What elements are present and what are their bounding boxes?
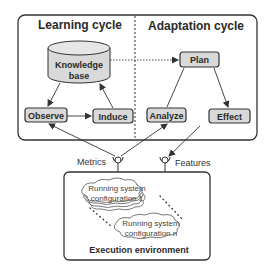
- adaptation-diagram: Learning cycle Adaptation cycle Knowledg…: [0, 0, 271, 274]
- metrics-interface: Metrics: [77, 157, 123, 172]
- features-label: Features: [175, 158, 211, 168]
- effect-node: Effect: [209, 109, 250, 123]
- config-1-label-2: configuration 1: [91, 194, 144, 203]
- analyze-node: Analyze: [147, 108, 186, 122]
- config-1-label-1: Running system: [88, 184, 146, 193]
- knowledge-base-label-1: Knowledge: [55, 60, 103, 70]
- observe-node: Observe: [25, 108, 67, 122]
- execution-environment-label: Execution environment: [89, 245, 189, 255]
- learning-cycle-title: Learning cycle: [38, 18, 122, 32]
- adaptation-cycle-title: Adaptation cycle: [148, 19, 244, 33]
- analyze-label: Analyze: [149, 111, 183, 121]
- plan-node: Plan: [180, 52, 219, 67]
- effect-label: Effect: [217, 112, 242, 122]
- running-config-1-cloud: Running system configuration 1: [82, 178, 146, 211]
- plan-label: Plan: [190, 55, 209, 65]
- observe-label: Observe: [28, 111, 64, 121]
- induce-node: Induce: [93, 109, 133, 123]
- knowledge-base-node: Knowledge base: [48, 41, 110, 83]
- config-n-label-2: configuration n: [125, 229, 177, 238]
- induce-label: Induce: [98, 112, 127, 122]
- config-n-label-1: Running system: [122, 219, 180, 228]
- knowledge-base-label-2: base: [69, 71, 90, 81]
- metrics-label: Metrics: [77, 157, 106, 167]
- features-interface: Features: [160, 157, 211, 172]
